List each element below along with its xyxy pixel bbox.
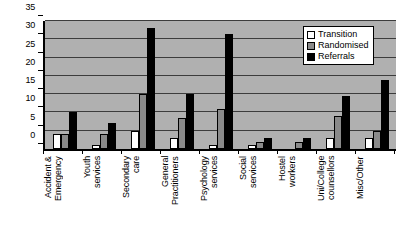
x-axis-label: Psychology services (199, 156, 238, 230)
x-axis-label: Social services (238, 156, 277, 230)
bar-referrals (69, 112, 77, 149)
bar-transition (170, 138, 178, 149)
bar-group (45, 21, 84, 149)
x-tick-mark (277, 149, 278, 154)
y-tick-label-35: 35 (9, 3, 35, 12)
bar-randomised (178, 118, 186, 149)
x-tick-mark (355, 149, 356, 154)
legend-swatch-icon (307, 31, 315, 39)
x-axis-labels: Accident & EmergencyYouth servicesSecond… (43, 156, 396, 233)
bar-transition (131, 131, 139, 149)
bar-randomised (100, 134, 108, 149)
x-tick-mark (121, 149, 122, 154)
x-axis-label: General Practitioners (160, 156, 199, 230)
bar-referrals (225, 34, 233, 149)
bar-randomised (139, 94, 147, 149)
x-tick-mark (199, 149, 200, 154)
legend: TransitionRandomisedReferrals (303, 26, 374, 65)
legend-label: Transition (318, 30, 357, 39)
legend-swatch-icon (307, 53, 315, 61)
x-tick-mark (238, 149, 239, 154)
y-tick-label-15: 15 (9, 76, 35, 85)
x-tick-mark (43, 149, 44, 154)
bar-referrals (108, 123, 116, 149)
y-axis: 05101520253035 (0, 21, 43, 151)
x-axis-label: Secondary care (121, 156, 160, 230)
y-tick-label-30: 30 (9, 21, 35, 30)
x-tick-mark (316, 149, 317, 154)
bar-randomised (217, 109, 225, 149)
y-tick-mark-35 (38, 15, 43, 16)
bar-group (240, 21, 279, 149)
x-axis-label: Hostel workers (277, 156, 316, 230)
bar-referrals (381, 80, 389, 149)
bar-chart: 05101520253035 Accident & EmergencyYouth… (0, 0, 410, 233)
bar-referrals (303, 138, 311, 149)
x-axis-label: Accident & Emergency (43, 156, 82, 230)
bar-transition (326, 138, 334, 149)
bar-referrals (342, 96, 350, 149)
bar-randomised (295, 142, 303, 149)
x-tick-mark (394, 149, 395, 154)
bar-referrals (186, 94, 194, 149)
bar-group (162, 21, 201, 149)
bar-referrals (264, 138, 272, 149)
legend-label: Referrals (318, 52, 355, 61)
legend-item[interactable]: Randomised (307, 41, 369, 50)
y-tick-label-20: 20 (9, 58, 35, 67)
legend-item[interactable]: Transition (307, 30, 369, 39)
y-tick-label-0: 0 (9, 131, 35, 140)
bar-group (123, 21, 162, 149)
bar-group (84, 21, 123, 149)
x-tick-mark (160, 149, 161, 154)
bar-randomised (334, 116, 342, 149)
bar-randomised (61, 134, 69, 149)
bar-transition (365, 138, 373, 149)
y-tick-label-10: 10 (9, 94, 35, 103)
x-axis-label: Uni/College counsellors (316, 156, 355, 230)
y-tick-label-5: 5 (9, 113, 35, 122)
x-axis-ticks (43, 149, 396, 154)
legend-label: Randomised (318, 41, 369, 50)
x-axis-label: Youth services (82, 156, 121, 230)
bar-group (201, 21, 240, 149)
bar-randomised (256, 142, 264, 149)
bar-randomised (373, 131, 381, 149)
x-tick-mark (82, 149, 83, 154)
bar-transition (53, 134, 61, 149)
legend-swatch-icon (307, 42, 315, 50)
legend-item[interactable]: Referrals (307, 52, 369, 61)
y-tick-label-25: 25 (9, 40, 35, 49)
bar-referrals (147, 28, 155, 149)
x-axis-label: Misc/Other (355, 156, 394, 230)
